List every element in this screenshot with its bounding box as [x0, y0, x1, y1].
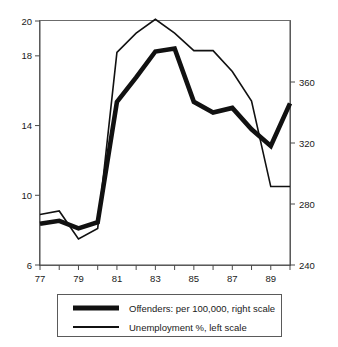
x-tick-label: 77 — [35, 273, 46, 284]
left-tick-label: 18 — [21, 50, 32, 61]
right-tick-label: 240 — [299, 260, 315, 271]
left-tick-label: 14 — [21, 120, 32, 131]
legend-label-offenders: Offenders: per 100,000, right scale — [129, 303, 275, 314]
left-tick-label: 10 — [21, 190, 32, 201]
left-tick-label: 20 — [21, 16, 32, 27]
x-tick-label: 87 — [227, 273, 238, 284]
right-tick-label: 280 — [299, 199, 315, 210]
chart-figure: 610141820 240280320360 77798183858789 Of… — [0, 0, 338, 347]
x-tick-label: 89 — [265, 273, 276, 284]
legend-label-unemployment: Unemployment %, left scale — [129, 322, 247, 333]
x-tick-label: 79 — [73, 273, 84, 284]
x-tick-label: 85 — [189, 273, 200, 284]
chart-legend: Offenders: per 100,000, right scaleUnemp… — [58, 295, 282, 337]
left-tick-label: 6 — [27, 260, 32, 271]
x-tick-label: 83 — [150, 273, 161, 284]
chart-canvas: 610141820 240280320360 77798183858789 Of… — [0, 0, 338, 347]
right-tick-label: 360 — [299, 77, 315, 88]
x-tick-label: 81 — [112, 273, 123, 284]
right-tick-label: 320 — [299, 138, 315, 149]
